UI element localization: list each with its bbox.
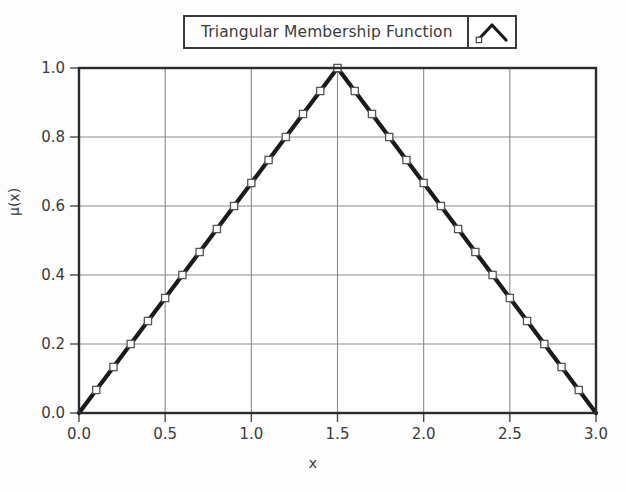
y-tick-label-4: 0.8 [41,128,65,146]
y-tick-label-2: 0.4 [41,266,65,284]
x-tick-label-5: 2.5 [498,425,522,443]
x-tick-label-1: 0.5 [153,425,177,443]
x-tick-label-4: 2.0 [412,425,436,443]
y-axis-title: μ(x) [6,188,22,216]
y-tick-label-1: 0.2 [41,335,65,353]
y-tick-label-3: 0.6 [41,197,65,215]
triangle-line-marker-icon [467,17,515,47]
chart-canvas [0,0,626,492]
y-tick-label-0: 0.0 [41,404,65,422]
chart-legend: Triangular Membership Function [183,15,517,49]
x-axis-title: x [0,455,626,471]
y-tick-label-5: 1.0 [41,59,65,77]
x-tick-label-2: 1.0 [239,425,263,443]
x-tick-label-0: 0.0 [67,425,91,443]
legend-item-label: Triangular Membership Function [185,17,467,47]
chart-figure: Triangular Membership Function μ(x) x 0.… [0,0,626,492]
x-tick-label-6: 3.0 [584,425,608,443]
x-tick-label-3: 1.5 [326,425,350,443]
